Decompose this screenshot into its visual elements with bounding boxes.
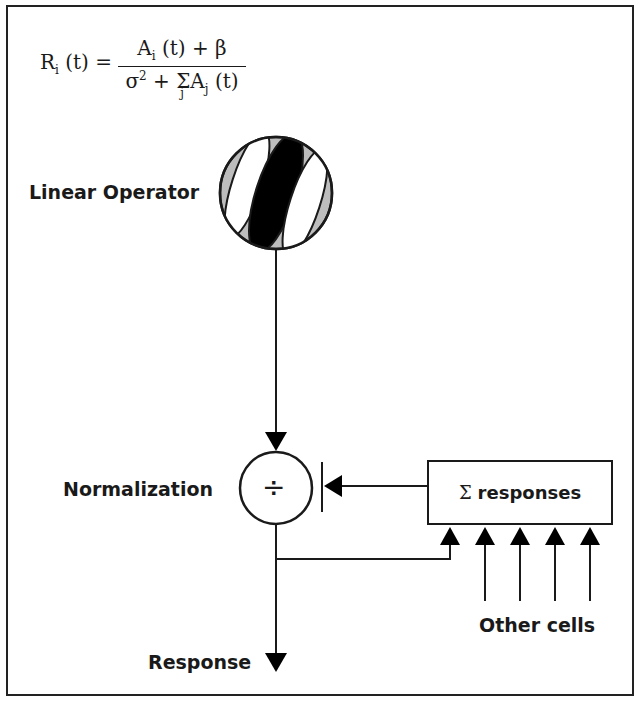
eq-num-sub: i: [152, 49, 156, 63]
sum-responses-label: Σ responses: [428, 461, 612, 524]
other-cells-label: Other cells: [479, 614, 595, 636]
eq-sum-index: j: [180, 86, 184, 100]
equation-numerator: Ai (t) + β: [118, 36, 246, 67]
eq-num-a: A: [137, 36, 151, 60]
other-cells-arrows: [475, 527, 600, 601]
diagram-canvas: [0, 0, 637, 701]
equation-denominator: σ2 + ΣjAj (t): [118, 67, 246, 96]
eq-den-sum: Σj: [176, 69, 190, 93]
equation-fraction: Ai (t) + β σ2 + ΣjAj (t): [118, 36, 246, 96]
sum-responses-text: responses: [478, 482, 582, 503]
sum-icon: Σ: [459, 482, 472, 503]
divide-icon: ÷: [262, 471, 285, 504]
feedback-arrow: [322, 462, 428, 512]
eq-den-sup: 2: [139, 69, 147, 83]
normalization-label: Normalization: [63, 478, 213, 500]
eq-r: R: [40, 50, 55, 74]
eq-r-sub: i: [55, 63, 59, 77]
equation-lhs: Ri (t) =: [40, 50, 112, 77]
gabor-receptive-field-icon: [215, 126, 336, 261]
response-label: Response: [148, 651, 251, 673]
eq-num-rest: (t) + β: [162, 36, 227, 60]
eq-den-sigma: σ: [125, 69, 139, 93]
output-path: [265, 524, 460, 672]
operator-to-normalization-arrow: [265, 250, 287, 451]
eq-den-a-sub: j: [205, 82, 209, 96]
eq-lhs-arg: (t) =: [65, 50, 112, 74]
eq-den-arg: (t): [215, 69, 239, 93]
linear-operator-label: Linear Operator: [29, 181, 199, 203]
eq-den-plus: +: [153, 69, 170, 93]
eq-den-a: A: [190, 69, 204, 93]
